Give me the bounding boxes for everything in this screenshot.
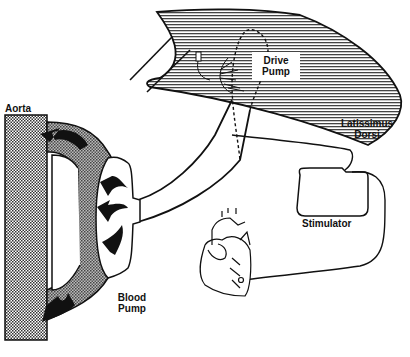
blood-pump-label-line2: Pump (112, 303, 152, 314)
blood-pump-label: Blood Pump (112, 292, 152, 314)
drive-pump-label: Drive Pump (255, 55, 297, 77)
drive-pump-label-line1: Drive (256, 55, 296, 66)
blood-pump-chamber (96, 157, 140, 278)
latissimus-label-line1: Latissimus (341, 118, 393, 129)
latissimus-label-line2: Dorsi (354, 129, 380, 140)
aorta (5, 115, 47, 340)
aorta-label: Aorta (5, 103, 31, 114)
drive-pump-label-line2: Pump (256, 66, 296, 77)
diagram-canvas (0, 0, 410, 357)
connecting-tube (138, 100, 250, 222)
heart (200, 208, 251, 296)
stimulator (297, 168, 368, 216)
stimulator-label: Stimulator (302, 218, 351, 229)
blood-pump-label-line1: Blood (112, 292, 152, 303)
latissimus-dorsi-label: Latissimus Dorsi (337, 118, 397, 140)
